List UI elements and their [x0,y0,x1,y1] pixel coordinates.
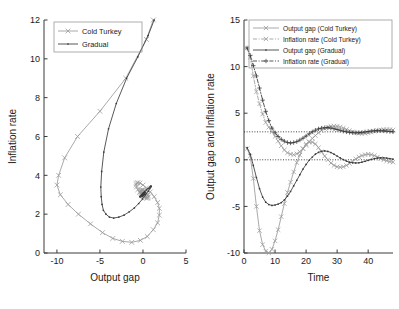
marker-dot [333,153,335,155]
legend-label-1: Inflation rate (Cold Turkey) [283,36,361,44]
marker-dot [146,189,148,191]
marker-dot [113,217,115,219]
marker-dot [392,158,394,160]
marker-dot [287,195,289,197]
marker-x [100,230,105,235]
marker-dot [274,204,276,206]
marker-dot [249,153,251,155]
marker-dot [262,196,264,198]
marker-x [152,194,157,199]
marker-plus [257,86,261,90]
right-panel-svg: 010203040-10-5051015TimeOutput gap and I… [199,0,399,309]
marker-dot [128,211,130,213]
marker-dot [145,194,147,196]
marker-dot [138,203,140,205]
marker-dot [103,151,105,153]
marker-dot [336,155,338,157]
x-tick-label: 0 [241,256,246,266]
marker-dot [364,160,366,162]
marker-dot [100,186,102,188]
x-tick-label: 5 [183,256,188,266]
marker-dot [308,159,310,161]
marker-x [145,234,150,239]
marker-x [151,227,156,232]
marker-dot [277,203,279,205]
marker-x [155,200,160,205]
marker-dot [342,159,344,161]
marker-dot [311,156,313,158]
marker-dot [302,168,304,170]
y-tick-label: -10 [227,248,240,258]
marker-dot [147,35,149,37]
marker-plus [288,141,292,145]
marker-dot [380,157,382,159]
marker-plus [360,130,364,134]
marker-x [316,131,320,135]
y-tick-label: 0 [235,155,240,165]
marker-x [58,192,63,197]
marker-dot [367,160,369,162]
left-panel-svg: -10-505024681012Output gapInflation rate… [0,0,199,309]
marker-dot [149,188,151,190]
marker-dot [318,151,320,153]
marker-dot [108,128,110,130]
x-tick-label: 40 [363,256,373,266]
marker-dot [105,213,107,215]
marker-dot [115,103,117,105]
x-axis-title: Output gap [90,272,140,283]
marker-dot [374,158,376,160]
marker-dot [386,157,388,159]
marker-dot [265,201,267,203]
right-legend: Output gap (Cold Turkey)Inflation rate (… [249,20,392,68]
marker-dot [330,152,332,154]
marker-dot [271,205,273,207]
marker-dot [67,43,69,45]
marker-dot [123,214,125,216]
marker-dot [349,161,351,163]
y-axis-title: Output gap and Inflation rate [205,73,216,200]
x-tick-label: 20 [301,256,311,266]
marker-dot [284,199,286,201]
marker-plus [267,118,271,122]
marker-x [267,125,271,129]
marker-x [323,154,327,158]
marker-plus [264,59,268,63]
legend-label-0: Output gap (Cold Turkey) [283,25,357,33]
marker-dot [149,186,151,188]
marker-dot [137,56,139,58]
marker-dot [293,185,295,187]
marker-dot [321,150,323,152]
right-panel-time-series: 010203040-10-5051015TimeOutput gap and I… [199,0,399,309]
marker-dot [153,19,155,21]
marker-dot [299,174,301,176]
marker-dot [256,177,258,179]
marker-plus [307,132,311,136]
marker-x [260,112,264,116]
axis-frame [244,20,393,253]
y-axis-title: Inflation rate [7,109,18,164]
marker-dot [346,160,348,162]
legend-label-0: Cold Turkey [82,27,122,36]
y-tick-label: 12 [30,15,40,25]
marker-x [88,221,93,226]
marker-dot [290,191,292,193]
marker-dot [377,157,379,159]
x-axis-title: Time [308,272,330,283]
marker-dot [296,179,298,181]
marker-plus [260,98,264,102]
marker-dot [268,204,270,206]
x-tick-label: 30 [332,256,342,266]
marker-dot [280,202,282,204]
marker-dot [246,147,248,149]
marker-dot [355,162,357,164]
legend-label-2: Output gap (Gradual) [283,47,345,55]
marker-dot [339,157,341,159]
left-legend: Cold TurkeyGradual [54,22,142,52]
y-tick-label: 4 [35,171,40,181]
y-tick-label: 6 [35,132,40,142]
marker-x [385,159,389,163]
y-tick-label: 2 [35,209,40,219]
marker-dot [389,158,391,160]
marker-dot [252,165,254,167]
marker-dot [147,190,149,192]
